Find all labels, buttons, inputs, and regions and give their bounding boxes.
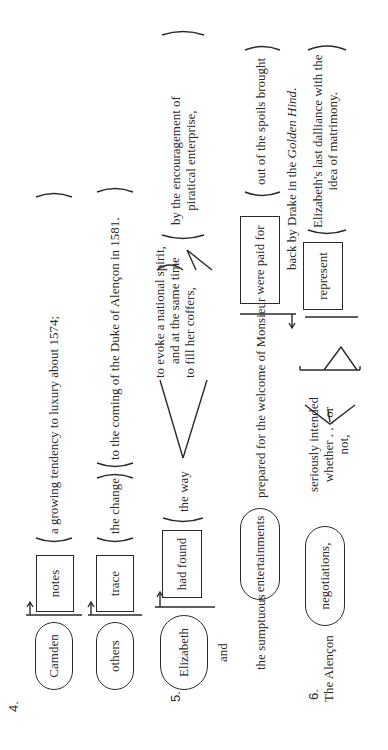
object-text-growing-tendency: a growing tendency to luxury about 1574; <box>47 316 61 534</box>
source-line-2-text: back by Drake in the <box>284 162 299 270</box>
source-text-line-1: out of the spoils brought <box>254 58 268 185</box>
source-text-line-2: back by Drake in the Golden Hind. <box>285 88 299 270</box>
means-text-encouragement: by the encouragement of piratical enterp… <box>168 96 198 225</box>
object-text-the-change: the change <box>108 478 122 534</box>
subject-text: Camden <box>46 634 62 677</box>
verb-box-represent: represent <box>303 242 343 310</box>
subject-oval-entertainments: entertainments <box>240 508 280 600</box>
verb-text: notes <box>47 570 63 597</box>
object-text-dalliance: Elizabeth's last dalliance with the idea… <box>310 55 340 228</box>
modifier-text-welcome-monsieur: prepared for the welcome of Monsieur <box>254 298 268 498</box>
object-text-the-way: the way <box>177 471 191 512</box>
sentence-diagram: 4. Camden notes a growing tendency to lu… <box>0 0 388 750</box>
subject-oval-others: others <box>96 622 134 690</box>
verb-box-trace: trace <box>96 555 134 612</box>
verb-text: trace <box>107 571 123 596</box>
subject-text: negotiations, <box>317 543 333 610</box>
sentence-number-6: 6. <box>306 689 321 700</box>
verb-box-were-paid-for: were paid for <box>240 216 280 304</box>
bracket-line-2: whether . . . or <box>321 397 336 492</box>
subject-text: others <box>107 640 123 672</box>
bracket-text-seriously-intended: seriously intended whether . . . or not, <box>306 397 351 492</box>
branch-line-2: and at the same time <box>167 246 182 378</box>
branch-text-evoke: to evoke a national spirit, and at the s… <box>152 246 197 378</box>
bracket-line-3: not, <box>336 397 351 492</box>
object-line-2: idea of matrimony. <box>325 55 340 228</box>
ship-name-italic: Golden Hind <box>284 91 299 159</box>
verb-box-notes: notes <box>36 555 74 612</box>
modifier-text-coming-of-duke: to the coming of the Duke of Alençon in … <box>108 217 122 460</box>
verb-box-had-found: had found <box>162 530 202 598</box>
verb-text: were paid for <box>252 225 268 294</box>
object-line-1: Elizabeth's last dalliance with the <box>310 55 325 228</box>
verb-text: represent <box>315 252 331 300</box>
subject-oval-negotiations: negotiations, <box>305 526 345 626</box>
sentence-number-4: 4. <box>6 701 21 712</box>
subject-text: Elizabeth <box>176 628 192 677</box>
source-end-period: . <box>284 88 299 91</box>
subject-oval-elizabeth: Elizabeth <box>160 615 208 690</box>
branch-line-3: to fill her coffers, <box>182 246 197 378</box>
sentence-number-5: 5. <box>168 691 183 702</box>
branch-line-1: to evoke a national spirit, <box>152 246 167 378</box>
means-line-2: piratical enterprise, <box>183 96 198 225</box>
subject-oval-camden: Camden <box>35 622 73 690</box>
conjunction-and: and <box>216 643 230 662</box>
prefix-text-sumptuous: the sumptuous <box>254 595 268 670</box>
verb-text: had found <box>174 538 190 590</box>
prefix-text-alencon: The Alençon <box>322 635 336 702</box>
bracket-line-1: seriously intended <box>306 397 321 492</box>
means-line-1: by the encouragement of <box>168 96 183 225</box>
subject-text: entertainments <box>252 516 268 593</box>
